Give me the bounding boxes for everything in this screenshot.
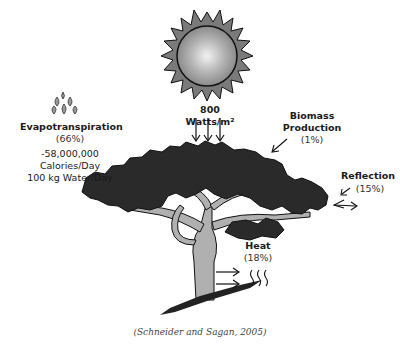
sun-label: 800 Watts/m²	[175, 104, 245, 128]
evapotranspiration-percent: (66%)	[20, 133, 120, 145]
evapotranspiration-water: 100 kg Water/Day	[20, 172, 120, 184]
biomass-percent: (1%)	[272, 134, 352, 146]
water-drops-icon	[52, 92, 77, 114]
heat-title: Heat	[238, 240, 278, 252]
evapotranspiration-title: Evapotranspiration	[20, 121, 120, 133]
reflection-label: Reflection	[338, 170, 398, 182]
biomass-title-line1: Biomass	[272, 110, 352, 122]
heat-percent: (18%)	[238, 252, 278, 264]
citation-caption: (Schneider and Sagan, 2005)	[100, 327, 300, 337]
reflection-percent: (15%)	[350, 183, 390, 195]
reflection-title: Reflection	[338, 170, 398, 182]
evapotranspiration-label: Evapotranspiration (66%) -58,000,000 Cal…	[20, 121, 120, 184]
biomass-title-line2: Production	[272, 122, 352, 134]
heat-waves-icon	[251, 270, 268, 286]
evapotranspiration-calories: -58,000,000 Calories/Day	[20, 148, 120, 172]
sun-irradiance: 800 Watts/m²	[186, 104, 235, 127]
heat-label: Heat (18%)	[238, 240, 278, 264]
heat-arrows	[216, 268, 239, 288]
sun-icon	[161, 10, 253, 101]
biomass-label: Biomass Production (1%)	[272, 110, 352, 146]
